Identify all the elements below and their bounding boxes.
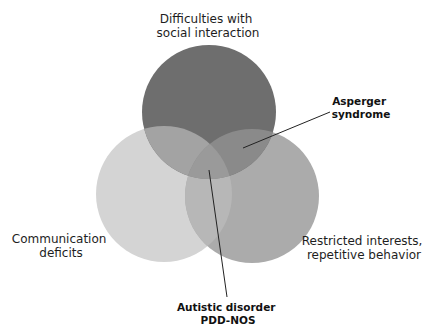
label-restricted-line-2: repetitive behavior (307, 248, 421, 262)
label-social-interaction: Difficulties with social interaction (157, 12, 260, 40)
label-communication-line-2: deficits (39, 246, 82, 260)
venn-diagram: Difficulties with social interaction Com… (0, 0, 433, 336)
callout-asperger-line-2: syndrome (332, 108, 391, 120)
callout-asperger-line-1: Asperger (332, 95, 387, 107)
callout-autistic-disorder: Autistic disorder PDD-NOS (177, 301, 279, 326)
label-communication-line-1: Communication (12, 232, 107, 246)
label-social-line-2: social interaction (157, 26, 260, 40)
label-social-line-1: Difficulties with (160, 12, 253, 26)
callout-asperger-syndrome: Asperger syndrome (332, 95, 391, 120)
callout-autistic-line-1: Autistic disorder (177, 301, 276, 313)
label-restricted-interests: Restricted interests, repetitive behavio… (302, 234, 426, 262)
label-restricted-line-1: Restricted interests, (302, 234, 423, 248)
label-communication-deficits: Communication deficits (12, 232, 110, 260)
callout-autistic-line-2: PDD-NOS (201, 314, 256, 326)
